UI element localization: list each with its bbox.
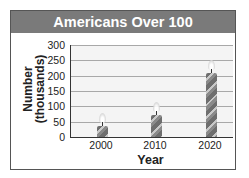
x-tick-label: 2000	[81, 139, 121, 151]
x-axis-label: Year	[11, 153, 235, 167]
y-tick-label: 150	[39, 86, 65, 96]
candle-bar-2000	[97, 126, 108, 137]
candle-bar-2010	[151, 115, 162, 137]
wick-icon	[102, 122, 103, 126]
y-tick-label: 300	[39, 40, 65, 50]
x-tick-label: 2020	[190, 139, 230, 151]
chart-frame: Americans Over 100 Number (thousands) 05…	[10, 10, 236, 170]
y-tick-label: 100	[39, 101, 65, 111]
plot-area	[70, 45, 233, 138]
y-tick-label: 50	[39, 117, 65, 127]
candle-bar-2020	[206, 73, 217, 137]
wick-icon	[211, 69, 212, 73]
y-tick-label: 0	[39, 132, 65, 142]
gridline	[71, 45, 233, 46]
y-tick-label: 250	[39, 55, 65, 65]
x-tick-label: 2010	[135, 139, 175, 151]
wick-icon	[156, 111, 157, 115]
chart-title: Americans Over 100	[11, 11, 235, 33]
y-tick-label: 200	[39, 71, 65, 81]
